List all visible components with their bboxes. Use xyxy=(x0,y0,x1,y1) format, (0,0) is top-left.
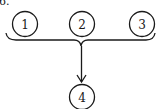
merge-brace xyxy=(6,33,155,46)
node-label: 1 xyxy=(21,18,29,32)
node-4: 4 xyxy=(70,85,95,110)
node-label: 4 xyxy=(78,91,86,105)
node-1: 1 xyxy=(13,12,38,37)
problem-label: 6. xyxy=(0,0,10,8)
node-label: 2 xyxy=(78,18,86,32)
node-label: 3 xyxy=(138,18,146,32)
diagram: 6. 1 2 3 4 xyxy=(0,0,156,109)
node-3: 3 xyxy=(130,12,155,37)
arrow-to-node-4 xyxy=(77,46,86,82)
node-2: 2 xyxy=(70,12,95,37)
